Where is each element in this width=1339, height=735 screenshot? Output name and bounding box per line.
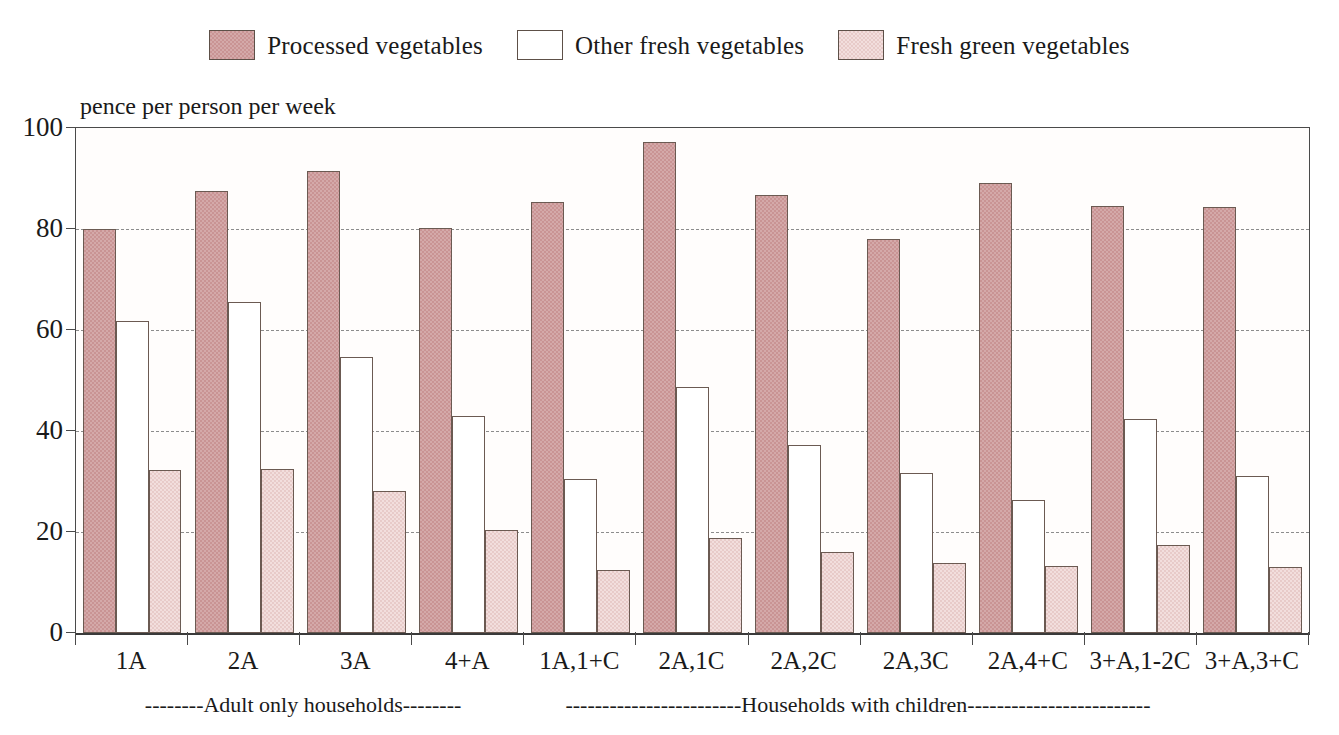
bar [676,387,709,633]
legend-item-processed: Processed vegetables [209,30,483,60]
legend-swatch-fresh-green-icon [838,30,884,60]
bar-group [300,128,412,633]
x-axis-label: 2A,2C [771,648,837,673]
y-tick-mark-20 [66,531,75,532]
group-annotation-label: ------------------------Households with … [565,694,1150,716]
x-axis-label: 2A,1C [659,648,725,673]
bar [1091,206,1124,633]
y-tick-label-20: 20 [36,518,63,545]
bar-series-container [76,128,1309,633]
x-tick-mark [1084,632,1085,645]
y-tick-mark-100 [66,127,75,128]
bar [755,195,788,633]
bar [340,357,373,633]
x-tick-mark [635,632,636,645]
y-tick-mark-60 [66,329,75,330]
bar [900,473,933,633]
legend-label-fresh-green: Fresh green vegetables [896,33,1129,58]
legend-label-processed: Processed vegetables [267,33,483,58]
y-tick-mark-0 [66,632,75,633]
legend-swatch-processed-icon [209,30,255,60]
bar-group [973,128,1085,633]
x-tick-mark [75,632,76,645]
x-axis-label: 2A,3C [883,648,949,673]
bar [531,202,564,633]
x-tick-mark [299,632,300,645]
x-tick-mark [523,632,524,645]
bar [83,229,116,633]
bar [709,538,742,633]
bar [1203,207,1236,633]
y-tick-label-40: 40 [36,417,63,444]
x-tick-mark [1308,632,1309,645]
x-axis-label: 2A [228,648,259,673]
x-tick-mark [748,632,749,645]
x-axis-label: 3A [340,648,371,673]
y-tick-label-60: 60 [36,316,63,343]
x-axis-label: 3+A,3+C [1205,648,1299,673]
x-axis-label: 3+A,1-2C [1089,648,1190,673]
bar [373,491,406,633]
bar-group [1197,128,1309,633]
bar [149,470,182,633]
x-axis-label: 1A,1+C [539,648,619,673]
bar-group [412,128,524,633]
x-axis-label: 2A,4+C [988,648,1068,673]
x-tick-mark [860,632,861,645]
bar-group [1085,128,1197,633]
bar [788,445,821,633]
bar [1045,566,1078,633]
bar [228,302,261,633]
bar [116,321,149,633]
bar-group [524,128,636,633]
bar [1236,476,1269,633]
bar [979,183,1012,633]
bar [597,570,630,633]
x-axis-label: 1A [116,648,147,673]
bar-group [861,128,973,633]
legend-item-fresh-green: Fresh green vegetables [838,30,1129,60]
bar [564,479,597,633]
legend-swatch-other-fresh-icon [517,30,563,60]
plot-area [75,127,1310,635]
chart-legend: Processed vegetables Other fresh vegetab… [0,30,1339,60]
bar-group [188,128,300,633]
bar [195,191,228,633]
legend-item-other-fresh: Other fresh vegetables [517,30,804,60]
legend-label-other-fresh: Other fresh vegetables [575,33,804,58]
bar [821,552,854,633]
x-tick-mark [411,632,412,645]
bar [1124,419,1157,633]
x-axis-ticks [75,632,1308,646]
bar-group [749,128,861,633]
y-axis-title: pence per person per week [80,94,336,118]
y-tick-label-100: 100 [23,114,64,141]
x-tick-mark [187,632,188,645]
x-axis-labels: 1A2A3A4+A1A,1+C2A,1C2A,2C2A,3C2A,4+C3+A,… [75,648,1308,680]
bar [1269,567,1302,633]
x-axis-label: 4+A [445,648,490,673]
y-tick-mark-40 [66,430,75,431]
bar [452,416,485,633]
bar [261,469,294,633]
x-tick-mark [972,632,973,645]
y-tick-label-0: 0 [50,619,64,646]
bar [643,142,676,633]
group-annotations: --------Adult only households-----------… [75,694,1308,724]
bar [1157,545,1190,633]
bar [1012,500,1045,633]
y-tick-label-80: 80 [36,215,63,242]
bar [933,563,966,633]
bar-group [76,128,188,633]
bar-group [636,128,748,633]
y-tick-mark-80 [66,228,75,229]
bar [867,239,900,633]
bar [307,171,340,633]
bar [485,530,518,633]
group-annotation-label: --------Adult only households-------- [145,694,461,716]
x-tick-mark [1196,632,1197,645]
bar [419,228,452,633]
y-axis: 020406080100 [0,127,75,632]
